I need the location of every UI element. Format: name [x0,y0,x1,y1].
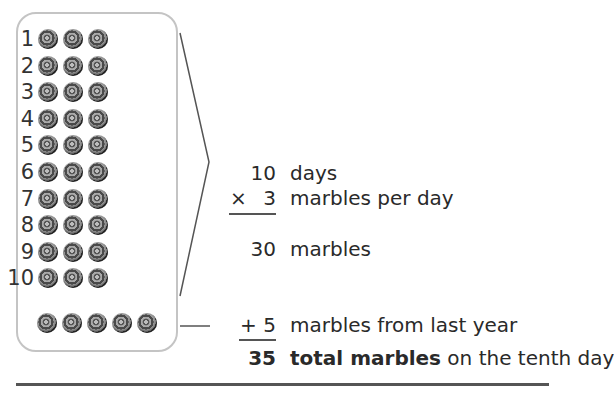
days-number: 10 [216,161,276,185]
last-year-number: 5 [216,313,276,337]
total-bold-text: total marbles [290,346,441,370]
per-day-number: 3 [216,186,276,210]
days-label: days [290,161,337,185]
subtotal-number: 30 [216,237,276,261]
multiply-underline [229,213,276,215]
plus-underline [239,339,276,341]
subtotal-label: marbles [290,237,371,261]
last-year-label: marbles from last year [290,313,517,337]
total-rest-text: on the tenth day [441,346,614,370]
per-day-label: marbles per day [290,186,454,210]
total-number: 35 [216,346,276,370]
bottom-rule [16,383,549,386]
total-label: total marbles on the tenth day [290,346,614,370]
